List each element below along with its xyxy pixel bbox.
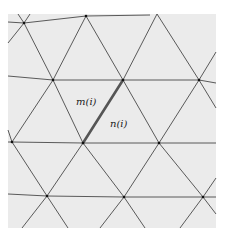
mesh-diagonal-line (124, 197, 145, 228)
mesh-diagonal-line (123, 80, 159, 143)
mesh-diagonal-line (8, 130, 12, 142)
mesh-diagonal-line (180, 197, 203, 228)
mesh-row-line (8, 76, 216, 83)
mesh-diagonal-line (203, 178, 216, 197)
mesh-diagonal-line (12, 142, 47, 196)
mesh-diagonal-line (157, 14, 199, 80)
mesh-diagonal-line (199, 52, 216, 80)
mesh-diagonal-line (12, 80, 53, 142)
mesh-diagonal-line (199, 80, 216, 108)
mesh-row-line (8, 142, 216, 143)
mesh-node (122, 79, 125, 82)
highlighted-edge (83, 80, 123, 143)
mesh-node (52, 79, 55, 82)
mesh-diagonal-line (159, 80, 199, 143)
mesh-node (85, 15, 88, 18)
mesh-diagonal-line (83, 143, 124, 197)
mesh-diagonal-line (18, 14, 24, 23)
mesh-diagonal-line (47, 196, 68, 228)
mesh-node (158, 142, 161, 145)
mesh-diagonal-line (24, 14, 30, 23)
mesh-node (123, 196, 126, 199)
mesh-diagonal-line (53, 80, 83, 143)
mesh-diagonal-line (203, 197, 216, 214)
mesh-diagonal-line (24, 23, 53, 80)
mesh-diagonal-line (124, 143, 159, 197)
mesh-node (11, 141, 14, 144)
mesh-node (82, 142, 85, 145)
mesh-diagonal-line (159, 143, 203, 197)
mesh-node (202, 196, 205, 199)
mesh-node (46, 195, 49, 198)
mesh-diagonal-line (22, 196, 47, 228)
label-n-i: n(i) (110, 118, 127, 129)
mesh-diagonal-line (53, 16, 86, 80)
mesh-row-line (8, 15, 150, 23)
mesh-node (198, 79, 201, 82)
mesh-diagonal-line (8, 23, 24, 43)
mesh-diagonal-line (123, 14, 157, 80)
mesh-node (23, 22, 26, 25)
mesh-diagonal-line (86, 16, 123, 80)
mesh-diagonal-line (100, 197, 124, 228)
mesh-diagram: m(i) n(i) (0, 0, 227, 235)
mesh-diagonal-line (47, 143, 83, 196)
label-m-i: m(i) (76, 96, 96, 107)
mesh-row-line (8, 194, 216, 197)
